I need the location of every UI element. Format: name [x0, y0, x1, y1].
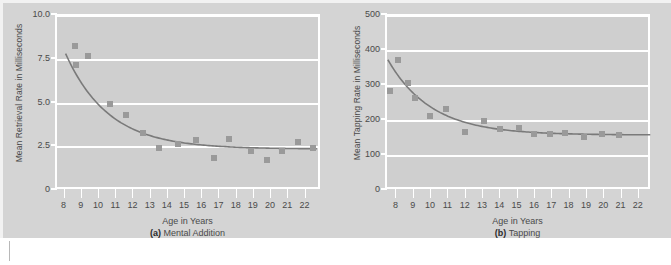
data-point [427, 113, 433, 119]
x-tick-label-b-20: 20 [595, 200, 611, 210]
data-point [248, 148, 254, 154]
data-point [310, 145, 316, 151]
y-tick-label-b-100: 100 [335, 150, 380, 159]
x-tick-label-a-21: 21 [279, 200, 295, 210]
y-tick-mark-b-500 [381, 13, 387, 15]
fit-curve-a [57, 16, 322, 191]
y-tick-mark-a-2.5 [51, 144, 57, 146]
x-tick-mark-b-16 [534, 189, 535, 198]
x-tick-label-b-13: 13 [474, 200, 490, 210]
x-tick-label-a-22: 22 [297, 200, 313, 210]
y-tick-mark-a-0 [51, 188, 57, 190]
x-tick-label-b-19: 19 [578, 200, 594, 210]
x-tick-mark-a-18 [236, 189, 237, 198]
y-tick-label-b-300: 300 [335, 80, 380, 89]
x-tick-mark-b-11 [447, 189, 448, 198]
x-axis-title-a: Age in Years [55, 216, 320, 226]
x-tick-label-a-9: 9 [73, 200, 89, 210]
x-tick-label-a-18: 18 [228, 200, 244, 210]
panel-letter-b: (b) [495, 228, 507, 238]
x-tick-mark-b-15 [517, 189, 518, 198]
x-tick-label-b-9: 9 [405, 200, 421, 210]
x-tick-label-b-22: 22 [630, 200, 646, 210]
x-tick-mark-a-22 [305, 189, 306, 198]
x-tick-label-b-21: 21 [613, 200, 629, 210]
data-point [156, 145, 162, 151]
y-tick-mark-b-300 [381, 83, 387, 85]
x-tick-mark-b-8 [395, 189, 396, 198]
x-tick-mark-a-21 [287, 189, 288, 198]
figure-bottom-edge [0, 238, 671, 265]
data-point [123, 112, 129, 118]
panel-title-a: Mental Addition [163, 228, 225, 238]
data-point [295, 139, 301, 145]
y-tick-label-b-200: 200 [335, 115, 380, 124]
data-point [616, 132, 622, 138]
x-tick-label-a-14: 14 [159, 200, 175, 210]
data-point [264, 157, 270, 163]
y-tick-mark-b-100 [381, 153, 387, 155]
x-tick-mark-b-9 [413, 189, 414, 198]
x-tick-label-a-19: 19 [245, 200, 261, 210]
data-point [581, 134, 587, 140]
data-point [73, 62, 79, 68]
x-tick-mark-a-20 [270, 189, 271, 198]
x-tick-mark-b-17 [551, 189, 552, 198]
x-tick-mark-a-19 [253, 189, 254, 198]
data-point [279, 148, 285, 154]
x-tick-label-b-8: 8 [387, 200, 403, 210]
x-tick-label-b-12: 12 [457, 200, 473, 210]
x-tick-label-b-10: 10 [422, 200, 438, 210]
y-tick-label-a-7.5: 7.5 [0, 54, 50, 63]
plot-area-a [55, 14, 320, 189]
x-tick-mark-b-14 [499, 189, 500, 198]
data-point [395, 57, 401, 63]
data-point [85, 53, 91, 59]
x-tick-mark-a-12 [132, 189, 133, 198]
x-tick-label-b-18: 18 [561, 200, 577, 210]
data-point [562, 130, 568, 136]
data-point [72, 43, 78, 49]
data-point [531, 131, 537, 137]
page-rule-mark [9, 241, 10, 261]
x-tick-label-a-8: 8 [56, 200, 72, 210]
data-point [107, 101, 113, 107]
x-tick-label-b-14: 14 [491, 200, 507, 210]
data-point [193, 137, 199, 143]
fit-curve-b [387, 16, 652, 191]
data-point [175, 141, 181, 147]
x-tick-mark-a-10 [98, 189, 99, 198]
panel-caption-a: (a) Mental Addition [55, 228, 320, 238]
x-tick-mark-b-22 [638, 189, 639, 198]
x-tick-mark-a-14 [167, 189, 168, 198]
x-tick-label-a-16: 16 [193, 200, 209, 210]
data-point [412, 95, 418, 101]
x-tick-label-b-15: 15 [509, 200, 525, 210]
x-tick-label-a-17: 17 [210, 200, 226, 210]
x-tick-mark-a-15 [184, 189, 185, 198]
y-tick-label-b-0: 0 [335, 185, 380, 194]
data-point [405, 80, 411, 86]
y-tick-mark-b-200 [381, 118, 387, 120]
data-point [599, 131, 605, 137]
x-tick-mark-b-12 [465, 189, 466, 198]
data-point [462, 129, 468, 135]
x-tick-mark-b-13 [482, 189, 483, 198]
x-tick-mark-b-20 [603, 189, 604, 198]
x-tick-mark-b-10 [430, 189, 431, 198]
y-tick-label-a-5.0: 5.0 [0, 98, 50, 107]
panel-tapping: Mean Tapping Rate in Milliseconds 010020… [335, 0, 670, 238]
y-axis-title-b: Mean Tapping Rate in Milliseconds [352, 13, 362, 173]
x-tick-label-b-11: 11 [439, 200, 455, 210]
panel-caption-b: (b) Tapping [385, 228, 650, 238]
y-tick-mark-a-5.0 [51, 101, 57, 103]
x-tick-mark-a-16 [201, 189, 202, 198]
x-tick-label-a-13: 13 [142, 200, 158, 210]
data-point [516, 125, 522, 131]
y-tick-mark-b-0 [381, 188, 387, 190]
y-tick-mark-a-7.5 [51, 57, 57, 59]
y-tick-label-a-10.0: 10.0 [0, 10, 50, 19]
x-tick-mark-b-19 [586, 189, 587, 198]
x-tick-mark-a-11 [115, 189, 116, 198]
y-tick-label-b-400: 400 [335, 45, 380, 54]
